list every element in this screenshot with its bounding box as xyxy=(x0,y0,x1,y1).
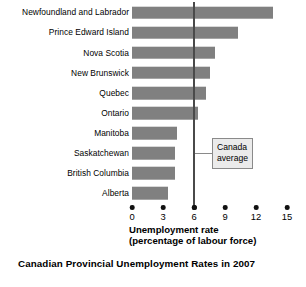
chart-row: New Brunswick xyxy=(0,63,306,83)
bar xyxy=(132,107,198,120)
category-label: Manitoba xyxy=(1,129,129,137)
chart-row: Saskatchewan xyxy=(0,143,306,163)
x-axis-tick-label: 12 xyxy=(251,211,261,222)
annotation-line-2: average xyxy=(217,153,248,163)
category-label: Quebec xyxy=(1,89,129,97)
chart-row: Ontario xyxy=(0,103,306,123)
bar xyxy=(132,26,238,39)
category-label: New Brunswick xyxy=(1,69,129,77)
bar xyxy=(132,167,175,180)
chart-row: Alberta xyxy=(0,183,306,203)
category-label: Ontario xyxy=(1,109,129,117)
x-axis: Unemployment rate (percentage of labour … xyxy=(0,202,306,248)
bar xyxy=(132,147,175,160)
category-label: Newfoundland and Labrador xyxy=(1,8,129,16)
figure-caption: Canadian Provincial Unemployment Rates i… xyxy=(18,258,255,270)
x-axis-tick-label: 15 xyxy=(282,211,292,222)
x-axis-title-line-2: (percentage of labour force) xyxy=(129,235,306,246)
unemployment-bar-chart-figure: Newfoundland and LabradorPrince Edward I… xyxy=(0,0,306,287)
x-axis-tick-label: 3 xyxy=(160,211,165,222)
x-axis-tick-dot xyxy=(254,205,259,210)
category-label: British Columbia xyxy=(1,169,129,177)
category-label: Prince Edward Island xyxy=(1,28,129,36)
x-axis-title: Unemployment rate (percentage of labour … xyxy=(129,224,306,247)
category-label: Saskatchewan xyxy=(1,149,129,157)
annotation-line-1: Canada xyxy=(217,142,247,152)
chart-row: Quebec xyxy=(0,83,306,103)
chart-row: Manitoba xyxy=(0,123,306,143)
category-label: Nova Scotia xyxy=(1,49,129,57)
category-label: Alberta xyxy=(1,189,129,197)
x-axis-tick-label: 6 xyxy=(191,211,196,222)
bar xyxy=(132,67,210,80)
chart-row: Nova Scotia xyxy=(0,43,306,63)
bar xyxy=(132,127,177,140)
x-axis-tick-dot xyxy=(285,205,290,210)
canada-average-line xyxy=(193,2,194,210)
x-axis-tick-dot xyxy=(192,205,197,210)
bar xyxy=(132,46,215,59)
annotation-leader-line xyxy=(195,153,212,154)
canada-average-annotation: Canada average xyxy=(212,138,253,169)
chart-row: Newfoundland and Labrador xyxy=(0,3,306,23)
chart-row: Prince Edward Island xyxy=(0,23,306,43)
plot-area: Newfoundland and LabradorPrince Edward I… xyxy=(0,0,306,202)
x-axis-tick-dot xyxy=(223,205,228,210)
bar xyxy=(132,187,168,200)
x-axis-tick-label: 0 xyxy=(129,211,134,222)
x-axis-tick-label: 9 xyxy=(222,211,227,222)
chart-row: British Columbia xyxy=(0,163,306,183)
x-axis-tick-dot xyxy=(130,205,135,210)
bar xyxy=(132,6,273,19)
bar xyxy=(132,87,206,100)
x-axis-tick-dot xyxy=(161,205,166,210)
x-axis-title-line-1: Unemployment rate xyxy=(129,224,219,235)
